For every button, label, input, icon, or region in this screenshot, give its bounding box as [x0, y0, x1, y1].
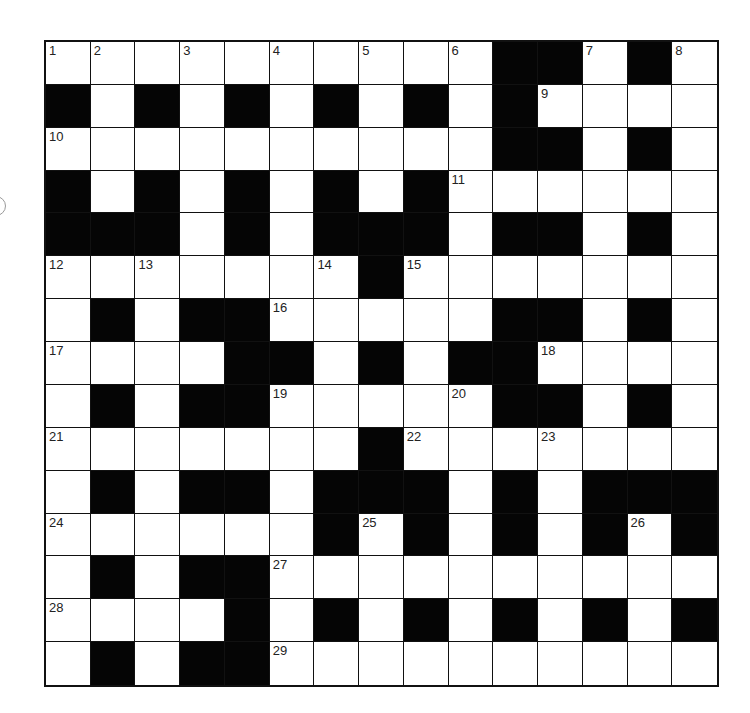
answer-square[interactable]: [225, 128, 270, 171]
answer-square[interactable]: 22: [404, 428, 449, 471]
answer-square[interactable]: [225, 514, 270, 557]
answer-square[interactable]: [91, 85, 136, 128]
answer-square[interactable]: [449, 213, 494, 256]
answer-square[interactable]: [449, 85, 494, 128]
answer-square[interactable]: [135, 42, 180, 85]
answer-square[interactable]: 1: [46, 42, 91, 85]
answer-square[interactable]: 27: [270, 556, 315, 599]
answer-square[interactable]: [135, 385, 180, 428]
answer-square[interactable]: [583, 428, 628, 471]
answer-square[interactable]: [270, 213, 315, 256]
answer-square[interactable]: [583, 256, 628, 299]
answer-square[interactable]: [538, 256, 583, 299]
answer-square[interactable]: [135, 128, 180, 171]
answer-square[interactable]: 21: [46, 428, 91, 471]
answer-square[interactable]: [46, 642, 91, 685]
answer-square[interactable]: 5: [359, 42, 404, 85]
answer-square[interactable]: [583, 556, 628, 599]
answer-square[interactable]: [135, 599, 180, 642]
answer-square[interactable]: [314, 642, 359, 685]
answer-square[interactable]: [225, 256, 270, 299]
answer-square[interactable]: 4: [270, 42, 315, 85]
answer-square[interactable]: [270, 599, 315, 642]
answer-square[interactable]: [270, 471, 315, 514]
answer-square[interactable]: [225, 42, 270, 85]
answer-square[interactable]: [91, 428, 136, 471]
answer-square[interactable]: [672, 256, 717, 299]
answer-square[interactable]: [583, 299, 628, 342]
answer-square[interactable]: [449, 556, 494, 599]
answer-square[interactable]: [672, 556, 717, 599]
answer-square[interactable]: [270, 85, 315, 128]
answer-square[interactable]: [672, 85, 717, 128]
answer-square[interactable]: [538, 642, 583, 685]
answer-square[interactable]: [180, 171, 225, 214]
answer-square[interactable]: [493, 171, 538, 214]
answer-square[interactable]: [449, 128, 494, 171]
answer-square[interactable]: [628, 642, 673, 685]
answer-square[interactable]: [538, 514, 583, 557]
answer-square[interactable]: [404, 556, 449, 599]
answer-square[interactable]: [180, 213, 225, 256]
answer-square[interactable]: [628, 171, 673, 214]
answer-square[interactable]: [493, 428, 538, 471]
answer-square[interactable]: [449, 299, 494, 342]
answer-square[interactable]: [449, 642, 494, 685]
answer-square[interactable]: [314, 556, 359, 599]
answer-square[interactable]: [270, 171, 315, 214]
answer-square[interactable]: [359, 642, 404, 685]
answer-square[interactable]: [449, 514, 494, 557]
answer-square[interactable]: [180, 599, 225, 642]
answer-square[interactable]: [672, 213, 717, 256]
answer-square[interactable]: 13: [135, 256, 180, 299]
answer-square[interactable]: [672, 428, 717, 471]
answer-square[interactable]: 8: [672, 42, 717, 85]
answer-square[interactable]: 23: [538, 428, 583, 471]
answer-square[interactable]: [628, 556, 673, 599]
answer-square[interactable]: [270, 256, 315, 299]
answer-square[interactable]: 29: [270, 642, 315, 685]
answer-square[interactable]: [583, 213, 628, 256]
answer-square[interactable]: [270, 514, 315, 557]
answer-square[interactable]: [135, 428, 180, 471]
answer-square[interactable]: [91, 171, 136, 214]
answer-square[interactable]: 28: [46, 599, 91, 642]
answer-square[interactable]: [672, 642, 717, 685]
answer-square[interactable]: [404, 299, 449, 342]
answer-square[interactable]: [493, 556, 538, 599]
answer-square[interactable]: [672, 385, 717, 428]
answer-square[interactable]: [314, 42, 359, 85]
answer-square[interactable]: 14: [314, 256, 359, 299]
answer-square[interactable]: [359, 85, 404, 128]
answer-square[interactable]: [404, 642, 449, 685]
answer-square[interactable]: [46, 471, 91, 514]
answer-square[interactable]: 9: [538, 85, 583, 128]
answer-square[interactable]: 3: [180, 42, 225, 85]
answer-square[interactable]: [46, 299, 91, 342]
answer-square[interactable]: [672, 342, 717, 385]
answer-square[interactable]: [583, 171, 628, 214]
answer-square[interactable]: [672, 128, 717, 171]
answer-square[interactable]: [583, 642, 628, 685]
answer-square[interactable]: [628, 599, 673, 642]
answer-square[interactable]: [314, 299, 359, 342]
answer-square[interactable]: [135, 556, 180, 599]
answer-square[interactable]: [672, 299, 717, 342]
answer-square[interactable]: 16: [270, 299, 315, 342]
answer-square[interactable]: 24: [46, 514, 91, 557]
answer-square[interactable]: [538, 599, 583, 642]
answer-square[interactable]: [404, 42, 449, 85]
answer-square[interactable]: [135, 514, 180, 557]
answer-square[interactable]: [180, 342, 225, 385]
answer-square[interactable]: [46, 385, 91, 428]
answer-square[interactable]: 10: [46, 128, 91, 171]
answer-square[interactable]: [91, 128, 136, 171]
answer-square[interactable]: [91, 599, 136, 642]
answer-square[interactable]: 17: [46, 342, 91, 385]
answer-square[interactable]: [135, 342, 180, 385]
answer-square[interactable]: [180, 85, 225, 128]
answer-square[interactable]: [404, 342, 449, 385]
answer-square[interactable]: [314, 128, 359, 171]
answer-square[interactable]: [270, 428, 315, 471]
answer-square[interactable]: [180, 128, 225, 171]
